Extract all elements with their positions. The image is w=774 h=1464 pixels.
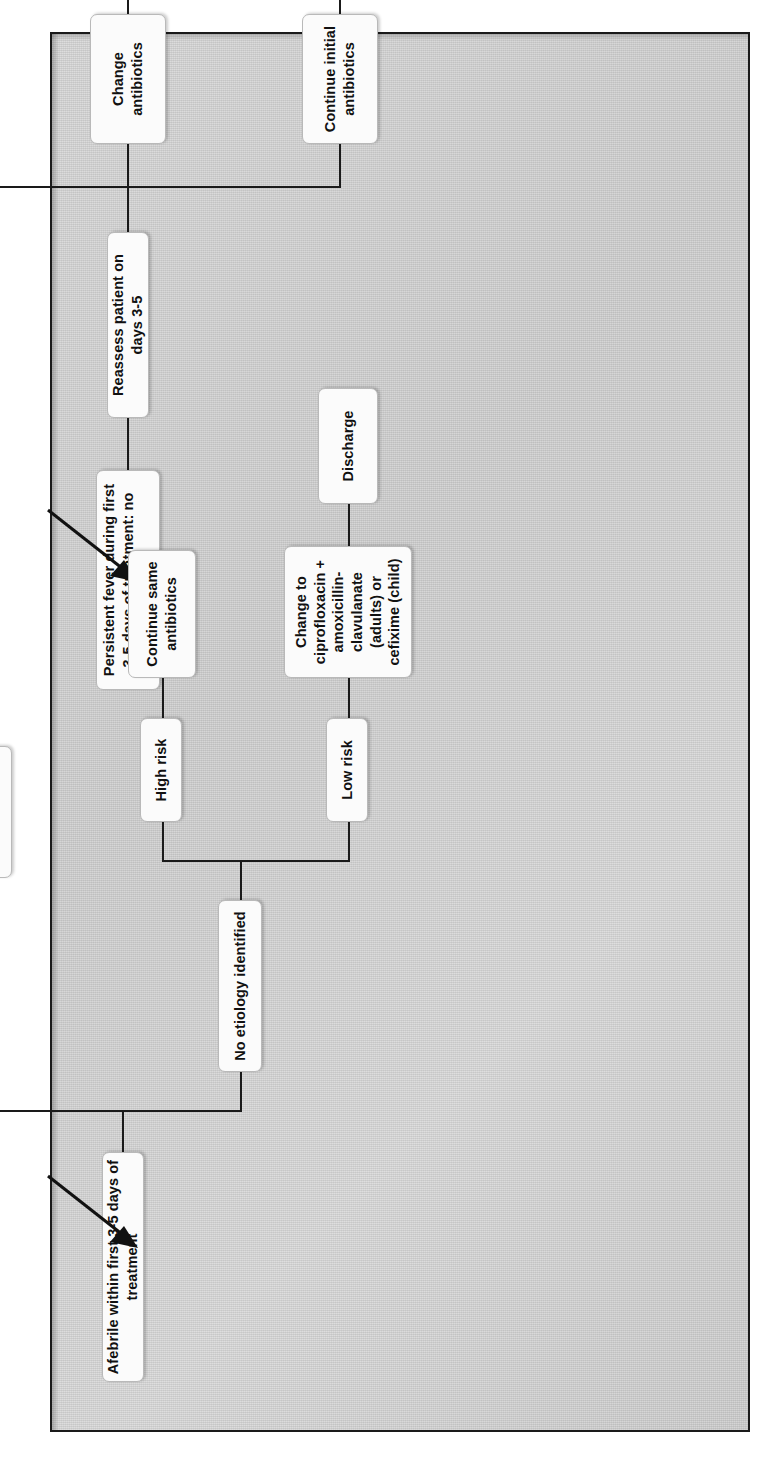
node-text: No etiology identified (231, 906, 250, 1066)
node-continue-initial-antibiotics: Continue initial antibiotics (302, 14, 378, 144)
connector-no-etiology-stem (240, 862, 242, 900)
node-continue-same-antibiotics: Continue same antibiotics (128, 550, 196, 678)
node-adjust-to-appropriate-treatment: Adjust to most appropriate treatment (0, 746, 12, 878)
node-high-risk: High risk (140, 718, 182, 822)
figure-frame: Persistent fever during first 3-5 days o… (50, 32, 750, 1432)
node-text: Continue same antibiotics (143, 556, 180, 672)
node-change-antibiotics: Change antibiotics (90, 14, 166, 144)
node-text: High risk (152, 724, 171, 816)
node-text: Change antibiotics (109, 20, 146, 138)
connector-high-risk-to-action (162, 678, 164, 718)
node-low-risk: Low risk (326, 718, 368, 822)
connector-reassess-stem (127, 188, 129, 232)
node-change-to-ciprofloxacin: Change to ciprofloxacin + amoxicillin-cl… (284, 546, 412, 678)
connector-risk-split (162, 860, 350, 862)
connector-spine-to-change-antibiotics (127, 144, 129, 188)
node-discharge: Discharge (318, 388, 378, 504)
connector-afebrile-stem (122, 1112, 124, 1152)
connector-ciprofloxacin-to-discharge (348, 504, 350, 546)
connector-split-to-no-etiology (240, 1072, 242, 1112)
connector-risk-split-to-high-risk (162, 822, 164, 862)
connector-spine-to-continue-initial (339, 144, 341, 188)
node-no-etiology-identified: No etiology identified (218, 900, 262, 1072)
connector-change-antibiotics-to-criteria (127, 0, 129, 14)
connector-risk-split-to-low-risk (348, 822, 350, 862)
node-text: Continue initial antibiotics (321, 20, 358, 138)
figure-page: Persistent fever during first 3-5 days o… (0, 0, 774, 1464)
connector-low-risk-to-action (348, 678, 350, 718)
connector-options-spine (0, 186, 340, 188)
connector-continue-initial-to-criteria (339, 0, 341, 14)
entry-arrow-afebrile (46, 1170, 156, 1260)
node-text: Low risk (338, 724, 357, 816)
node-text: Change to ciprofloxacin + amoxicillin-cl… (292, 552, 403, 672)
node-text: Discharge (339, 394, 358, 498)
connector-afebrile-split (0, 1110, 242, 1112)
